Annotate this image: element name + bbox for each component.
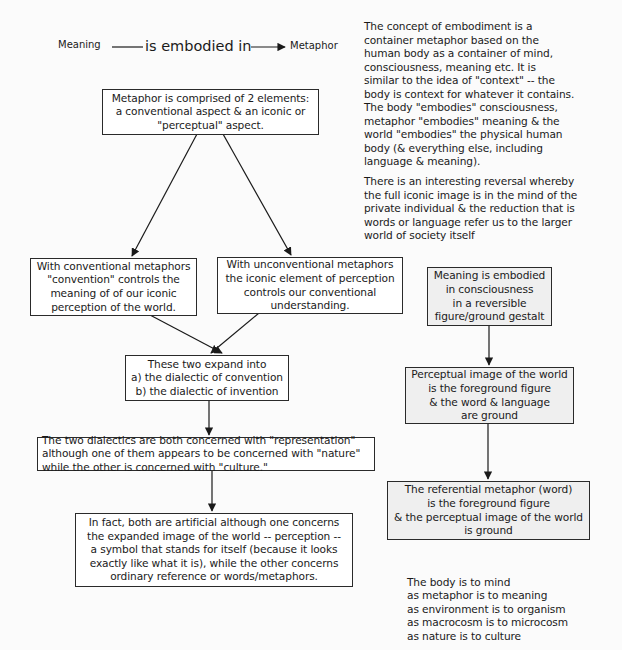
intro-paragraph-2: There is an interesting reversal whereby… xyxy=(364,175,577,243)
header-relation: is embodied in xyxy=(145,38,252,54)
intro-paragraph-1: The concept of embodiment is a container… xyxy=(364,20,574,169)
box-unconventional-metaphors: With unconventional metaphors the iconic… xyxy=(217,257,403,314)
header-subject: Meaning xyxy=(58,39,101,50)
box-figure-ground-gestalt: Meaning is embodied in consciousness in … xyxy=(427,267,552,326)
box-two-dialectics-expand: These two expand into a) the dialectic o… xyxy=(125,355,289,401)
analogy-text: The body is to mind as metaphor is to me… xyxy=(407,576,568,643)
box-both-artificial: In fact, both are artificial although on… xyxy=(75,513,353,587)
box-dialectics-representation: The two dialectics are both concerned wi… xyxy=(37,437,375,471)
box-perceptual-image-figure: Perceptual image of the world is the for… xyxy=(405,367,574,424)
box-metaphor-elements: Metaphor is comprised of 2 elements: a c… xyxy=(102,89,319,135)
box-conventional-metaphors: With conventional metaphors "convention"… xyxy=(30,258,197,316)
header-object: Metaphor xyxy=(290,40,338,51)
box-referential-metaphor-figure: The referential metaphor (word) is the f… xyxy=(387,481,590,540)
